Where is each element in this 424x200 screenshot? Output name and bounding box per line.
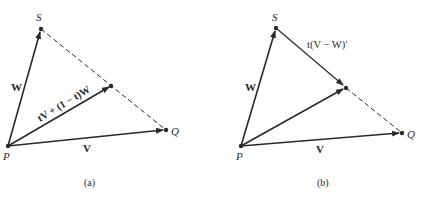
- point-s-dot: [39, 27, 43, 31]
- label-q: Q: [407, 128, 415, 140]
- dashed-segment-mid-q: [346, 88, 402, 133]
- label-combo: tV + (1 − t)W: [35, 83, 93, 124]
- label-p: P: [2, 150, 10, 162]
- panel-a: S P Q W V tV + (1 − t)W (a): [2, 11, 179, 189]
- point-mid-dot: [344, 86, 348, 90]
- label-diff: t(V − W)': [307, 39, 347, 51]
- label-v: V: [316, 143, 324, 155]
- point-q-dot: [400, 131, 404, 135]
- point-p-dot: [239, 144, 243, 148]
- label-w: W: [245, 81, 256, 93]
- panel-b: S P Q W V t(V − W)' (b): [235, 11, 415, 189]
- label-v: V: [83, 142, 91, 154]
- point-s-dot: [274, 26, 278, 30]
- label-w: W: [11, 81, 22, 93]
- caption-a: (a): [84, 177, 95, 189]
- point-mid-dot: [109, 84, 113, 88]
- point-p-dot: [6, 144, 10, 148]
- point-q-dot: [164, 128, 168, 132]
- vector-diff-arrow: [276, 28, 343, 85]
- label-s: S: [272, 11, 278, 23]
- label-s: S: [36, 11, 42, 23]
- caption-b: (b): [317, 177, 329, 189]
- label-p: P: [235, 150, 243, 162]
- vector-sum-arrow: [241, 89, 343, 146]
- label-q: Q: [171, 125, 179, 137]
- vector-diagram: S P Q W V tV + (1 − t)W (a) S P Q W V t(…: [0, 0, 424, 200]
